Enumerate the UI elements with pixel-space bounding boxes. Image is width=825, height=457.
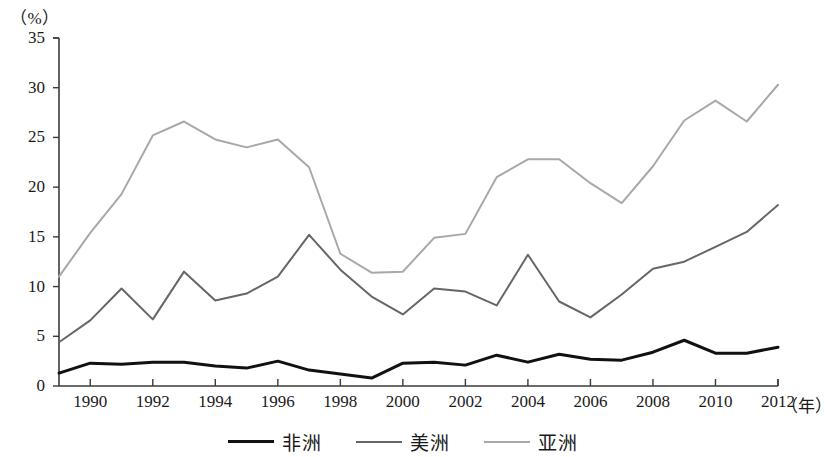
x-axis-tick-label: 2000	[368, 392, 438, 412]
x-axis-tick-label: 2004	[493, 392, 563, 412]
legend-label-africa: 非洲	[282, 428, 322, 455]
legend-label-asia: 亚洲	[538, 428, 578, 455]
x-axis-tick-label: 1992	[118, 392, 188, 412]
legend-label-americas: 美洲	[410, 428, 450, 455]
x-axis-unit-label: （年）	[781, 392, 825, 417]
x-axis-tick-label: 1998	[305, 392, 375, 412]
x-axis-tick-label: 2010	[680, 392, 750, 412]
legend-item-africa: 非洲	[228, 428, 322, 455]
legend-swatch-africa	[228, 440, 274, 443]
y-axis-tick-label: 10	[5, 277, 45, 297]
x-axis-tick-label: 1990	[55, 392, 125, 412]
legend-swatch-asia	[484, 441, 530, 443]
y-axis-tick-label: 20	[5, 177, 45, 197]
y-axis-tick-label: 0	[5, 376, 45, 396]
x-axis-tick-label: 2008	[618, 392, 688, 412]
y-axis-tick-label: 25	[5, 127, 45, 147]
y-axis-tick-label: 5	[5, 326, 45, 346]
legend-item-americas: 美洲	[356, 428, 450, 455]
y-axis-unit-label: （%）	[10, 4, 60, 29]
x-axis-tick-label: 1994	[180, 392, 250, 412]
series-line-americas	[59, 205, 778, 342]
series-line-asia	[59, 85, 778, 277]
x-axis-tick-label: 1996	[243, 392, 313, 412]
y-axis-tick-label: 15	[5, 227, 45, 247]
y-axis-tick-label: 35	[5, 28, 45, 48]
legend-swatch-americas	[356, 441, 402, 443]
y-axis-tick-label: 30	[5, 78, 45, 98]
x-axis-tick-label: 2002	[430, 392, 500, 412]
series-line-africa	[59, 340, 778, 378]
x-axis-tick-label: 2006	[555, 392, 625, 412]
chart-legend: 非洲 美洲 亚洲	[0, 428, 805, 455]
legend-item-asia: 亚洲	[484, 428, 578, 455]
